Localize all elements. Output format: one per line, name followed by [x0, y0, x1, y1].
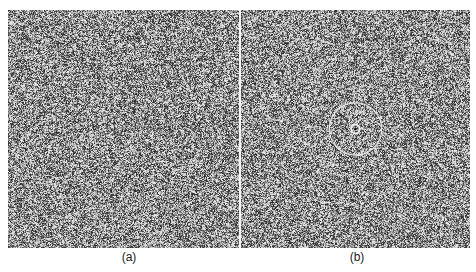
noise-canvas-a: [8, 10, 239, 248]
caption-b: (b): [337, 250, 377, 264]
noise-image-a: [8, 10, 239, 248]
caption-a: (a): [109, 250, 149, 264]
noise-image-b: [241, 10, 470, 248]
noise-canvas-b: [241, 10, 470, 248]
